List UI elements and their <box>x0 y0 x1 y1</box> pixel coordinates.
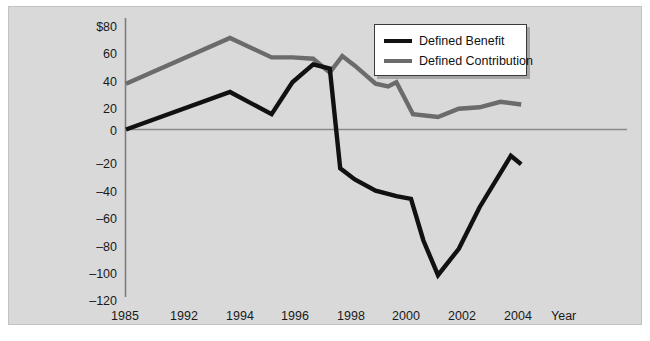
y-tick-label-20: 20 <box>63 103 117 116</box>
x-tick-label-1994: 1994 <box>214 310 266 323</box>
x-tick-label-2002: 2002 <box>436 310 488 323</box>
legend-label-defined-contribution: Defined Contribution <box>419 55 533 68</box>
chart-figure: $80 60 40 20 0 –20 –40 –60 –80 –100 –120… <box>0 0 650 341</box>
series-line-defined-benefit <box>126 64 521 275</box>
x-tick-label-1992: 1992 <box>158 310 210 323</box>
legend-swatch-defined-benefit <box>384 39 412 43</box>
legend-swatch-defined-contribution <box>384 59 412 63</box>
y-tick-label-80: $80 <box>63 21 117 34</box>
legend-item-defined-contribution: Defined Contribution <box>384 53 533 69</box>
x-tick-label-1985: 1985 <box>99 310 151 323</box>
legend-item-defined-benefit: Defined Benefit <box>384 33 504 49</box>
y-tick-label-60: 60 <box>63 48 117 61</box>
x-tick-label-2004: 2004 <box>492 310 544 323</box>
legend-label-defined-benefit: Defined Benefit <box>419 35 504 48</box>
y-tick-label-40: 40 <box>63 76 117 89</box>
chart-panel: $80 60 40 20 0 –20 –40 –60 –80 –100 –120… <box>8 6 642 325</box>
y-tick-label-minus80: –80 <box>63 241 117 254</box>
y-tick-label-minus60: –60 <box>63 213 117 226</box>
y-tick-label-0: 0 <box>63 125 117 138</box>
x-tick-label-2000: 2000 <box>380 310 432 323</box>
y-tick-label-minus20: –20 <box>63 158 117 171</box>
y-tick-label-minus40: –40 <box>63 186 117 199</box>
y-tick-label-minus120: –120 <box>57 295 117 308</box>
y-tick-label-minus100: –100 <box>57 268 117 281</box>
x-tick-label-1996: 1996 <box>269 310 321 323</box>
chart-legend: Defined Benefit Defined Contribution <box>374 24 527 76</box>
x-axis-caption: Year <box>551 310 576 323</box>
x-tick-label-1998: 1998 <box>325 310 377 323</box>
